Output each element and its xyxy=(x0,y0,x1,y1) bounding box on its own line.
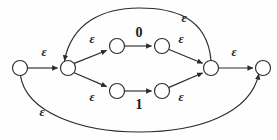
transition-label-bottom-right-to-merge: ε xyxy=(178,91,183,104)
state-branch[interactable] xyxy=(61,61,76,76)
transition-label-merge-to-accept: ε xyxy=(231,46,236,59)
transition-label-bypass: ε xyxy=(39,106,44,119)
transition-label-zero: 0 xyxy=(136,26,143,40)
state-bottom-left[interactable] xyxy=(110,84,125,99)
transition-label-top-right-to-merge: ε xyxy=(178,33,183,46)
transition-label-branch-to-bottom-left: ε xyxy=(89,91,94,104)
edge-branch-to-top-left xyxy=(74,51,106,64)
automaton-graph xyxy=(0,0,277,140)
edge-branch-to-bottom-left xyxy=(74,73,106,87)
state-bottom-right[interactable] xyxy=(155,84,170,99)
state-merge[interactable] xyxy=(204,61,219,76)
automaton-diagram-canvas: ε ε 0 ε ε 1 ε ε ε ε xyxy=(0,0,277,140)
edge-top-right-to-merge xyxy=(169,50,203,64)
state-top-left[interactable] xyxy=(110,39,125,54)
transition-label-one: 1 xyxy=(136,98,143,112)
state-accept[interactable] xyxy=(256,61,271,76)
state-start[interactable] xyxy=(13,61,28,76)
edge-bottom-right-to-merge xyxy=(169,73,203,87)
transition-label-feedback: ε xyxy=(181,12,186,25)
state-top-right[interactable] xyxy=(155,39,170,54)
transition-label-start-to-branch: ε xyxy=(41,46,46,59)
transition-label-branch-to-top-left: ε xyxy=(89,33,94,46)
